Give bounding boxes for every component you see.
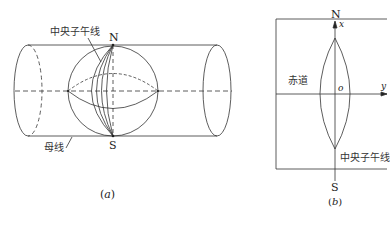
panel-a-sphere [66, 38, 158, 148]
label-north-a: N [109, 32, 119, 43]
equator-left-dot [67, 90, 69, 92]
caption-a-letter: a [104, 188, 111, 201]
label-generatrix: 母线 [44, 143, 64, 153]
label-central-meridian-b: 中央子午线 [340, 153, 390, 163]
label-equator: 赤道 [288, 76, 308, 86]
panel-a-cylinder [14, 45, 232, 136]
central-meridian-leader [88, 38, 101, 62]
label-origin: o [338, 84, 343, 93]
equator-right-dot [157, 90, 159, 92]
y-axis-arrow [381, 92, 387, 96]
cylinder-left-end [14, 45, 28, 136]
south-pole-dot [112, 135, 115, 138]
meridian-3 [102, 45, 114, 136]
equator-front [68, 91, 158, 109]
caption-b: (b) [328, 197, 342, 207]
label-y-axis: y [381, 82, 386, 91]
cylinder-right-end [203, 45, 231, 136]
cylinder-left-end-hidden [28, 45, 42, 136]
label-x-axis: x [339, 20, 344, 29]
label-south-b: S [331, 182, 339, 193]
x-axis-arrow [333, 21, 337, 28]
caption-a: (a) [100, 189, 115, 200]
caption-b-letter: b [332, 196, 338, 207]
projected-zone-left [320, 38, 335, 149]
generatrix-leader [66, 137, 72, 148]
label-south-a: S [109, 140, 117, 151]
projected-zone-right [335, 38, 350, 149]
label-central-meridian-a: 中央子午线 [50, 27, 100, 37]
north-pole-dot [112, 44, 115, 47]
